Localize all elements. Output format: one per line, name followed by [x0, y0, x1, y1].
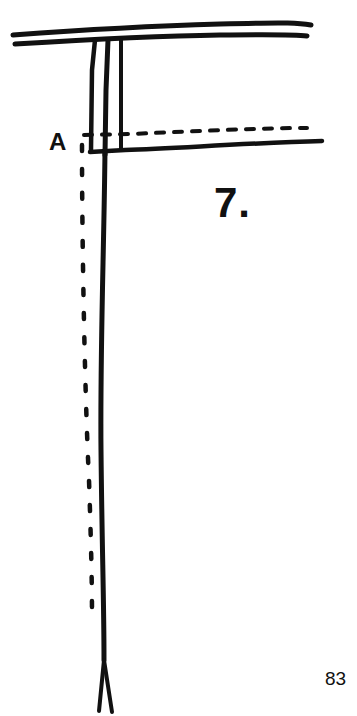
horizontal-solid-line: [90, 141, 322, 152]
long-vertical-solid-line: [101, 150, 105, 660]
point-a-label: A: [49, 130, 66, 154]
figure-number: 7.: [214, 182, 251, 224]
pattern-diagram: [0, 0, 357, 716]
vertical-line-center: [105, 40, 108, 155]
horizontal-dashed-line: [84, 128, 307, 135]
page-number: 83: [325, 669, 346, 688]
split-end-right: [104, 660, 112, 712]
long-vertical-dashed-line: [82, 145, 92, 617]
top-edge-line-lower: [15, 35, 307, 44]
